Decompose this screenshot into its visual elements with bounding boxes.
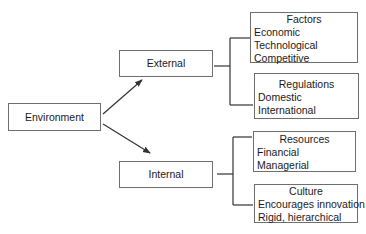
internal-node: Internal xyxy=(119,161,213,188)
factors-item: Economic xyxy=(251,26,357,39)
factors-group: Factors Economic Technological Competiti… xyxy=(250,12,358,63)
regulations-item: Domestic xyxy=(255,91,358,104)
environment-node: Environment xyxy=(8,103,101,131)
culture-group: Culture Encourages innovation Rigid, hie… xyxy=(254,184,358,223)
factors-item: Competitive xyxy=(251,52,357,65)
arrow-to-internal xyxy=(103,124,150,153)
resources-title: Resources xyxy=(254,133,355,146)
resources-group: Resources Financial Managerial xyxy=(253,131,356,172)
internal-bracket xyxy=(217,137,253,205)
internal-label: Internal xyxy=(148,168,183,181)
external-bracket xyxy=(214,38,253,105)
culture-item: Encourages innovation xyxy=(255,198,357,211)
resources-item: Financial xyxy=(254,146,355,159)
regulations-group: Regulations Domestic International xyxy=(254,73,359,119)
resources-item: Managerial xyxy=(254,159,355,172)
regulations-title: Regulations xyxy=(255,78,358,91)
arrow-to-external xyxy=(103,80,142,114)
culture-item: Rigid, hierarchical xyxy=(255,211,357,224)
culture-title: Culture xyxy=(255,185,357,198)
environment-label: Environment xyxy=(25,111,84,124)
factors-item: Technological xyxy=(251,39,357,52)
regulations-item: International xyxy=(255,104,358,117)
external-label: External xyxy=(147,57,186,70)
factors-title: Factors xyxy=(251,13,357,26)
external-node: External xyxy=(119,50,213,77)
